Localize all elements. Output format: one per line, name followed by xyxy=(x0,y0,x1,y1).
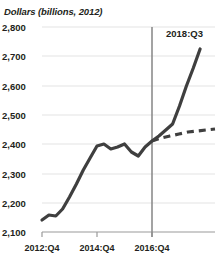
x-axis-tick-2012q4: 2012:Q4 xyxy=(14,243,70,253)
chart-plot-area xyxy=(0,0,219,262)
gridlines xyxy=(42,27,215,203)
chart-container: Dollars (billions, 2012) 2,800 2,700 2,6… xyxy=(0,0,219,262)
x-axis-tick-2014q4: 2014:Q4 xyxy=(69,243,125,253)
x-axis-ticks xyxy=(42,232,152,237)
endpoint-annotation-2018q3: 2018:Q3 xyxy=(166,28,203,39)
x-axis-tick-2016q4: 2016:Q4 xyxy=(124,243,180,253)
